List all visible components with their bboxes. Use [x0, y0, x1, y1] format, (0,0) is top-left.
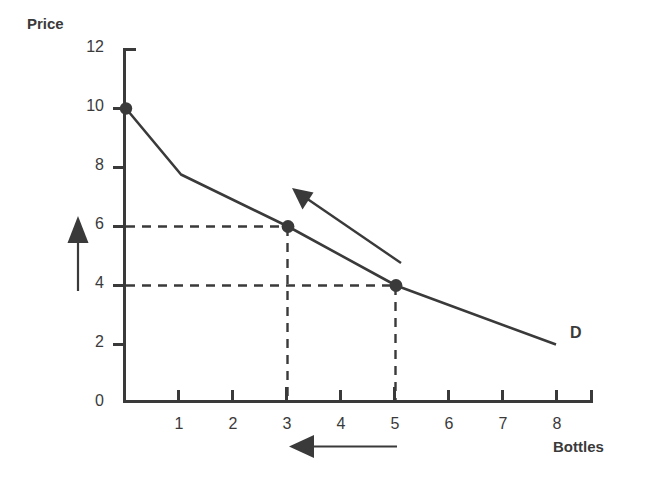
x-tick-label-8: 8 — [545, 415, 569, 433]
demand-curve-label: D — [570, 324, 582, 342]
x-tick-label-1: 1 — [167, 415, 191, 433]
y-axis-title: Price — [27, 15, 64, 32]
y-tick-label-4: 4 — [76, 274, 104, 292]
x-axis-title: Bottles — [553, 438, 604, 455]
x-tick-label-4: 4 — [329, 415, 353, 433]
x-tick-label-7: 7 — [491, 415, 515, 433]
y-tick-label-2: 2 — [76, 333, 104, 351]
y-tick-label-10: 10 — [76, 97, 104, 115]
x-tick-label-5: 5 — [383, 415, 407, 433]
x-tick-label-6: 6 — [437, 415, 461, 433]
data-point-5-4 — [390, 279, 403, 292]
data-point-markers — [120, 102, 403, 292]
x-tick-label-2: 2 — [221, 415, 245, 433]
y-tick-label-6: 6 — [76, 215, 104, 233]
demand-shift-arrow-icon — [292, 188, 401, 263]
y-tick-label-12: 12 — [76, 38, 104, 56]
demand-curve-chart: Price Bottles D 12 10 8 6 4 2 0 1 2 3 4 … — [0, 0, 646, 482]
y-tick-label-0: 0 — [76, 392, 104, 410]
guide-lines — [126, 227, 396, 401]
data-point-3-6 — [282, 220, 295, 233]
y-tick-label-8: 8 — [76, 156, 104, 174]
x-axis — [124, 387, 593, 402]
x-tick-label-3: 3 — [275, 415, 299, 433]
quantity-left-arrow-icon — [289, 435, 397, 458]
data-point-0-10 — [120, 102, 132, 114]
